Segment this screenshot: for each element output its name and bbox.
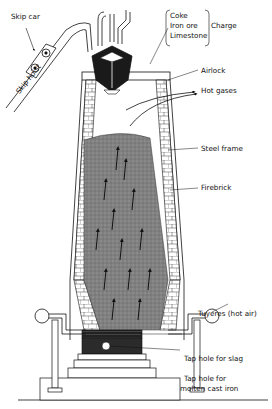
label-tuyeres: Tuyeres (hot air) — [198, 309, 257, 318]
label-limestone: Limestone — [170, 31, 207, 40]
label-airlock: Airlock — [201, 66, 225, 75]
label-tap-slag: Tap hole for slag — [184, 354, 243, 363]
label-firebrick: Firebrick — [201, 183, 231, 192]
label-skip-car: Skip car — [11, 12, 40, 21]
label-iron-ore: Iron ore — [170, 21, 198, 30]
slag-layer — [82, 330, 142, 338]
label-hot-gases: Hot gases — [201, 86, 237, 95]
label-steel-frame: Steel frame — [201, 144, 243, 153]
label-tap-iron-1: Tap hole for — [184, 374, 226, 383]
label-coke: Coke — [170, 11, 188, 20]
label-charge: Charge — [211, 21, 237, 30]
iron-tap-hole — [102, 342, 110, 350]
charge-hopper — [92, 46, 132, 94]
blast-furnace-diagram — [0, 0, 272, 409]
skip-hoist — [6, 23, 92, 112]
label-tap-iron-2: molten cast iron — [180, 384, 238, 393]
